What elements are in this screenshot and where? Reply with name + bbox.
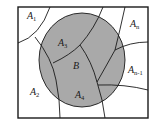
- partition-diagram: A1 A2 A3 A4 An An-1 B: [0, 0, 157, 127]
- event-b-region: [39, 13, 125, 107]
- label-b: B: [73, 60, 79, 71]
